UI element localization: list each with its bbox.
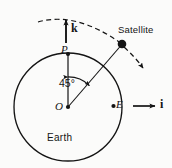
center-point-o-marker bbox=[66, 105, 70, 109]
satellite-earth-diagram: Satellite Earth P O E k i 45° bbox=[0, 0, 172, 168]
point-e-marker bbox=[111, 104, 115, 108]
satellite-marker bbox=[118, 40, 127, 49]
point-p-label: P bbox=[61, 44, 68, 55]
orbit-path-dashed bbox=[38, 19, 122, 44]
point-o-label: O bbox=[55, 101, 63, 112]
angle-45-label: 45° bbox=[59, 78, 75, 89]
point-e-label: E bbox=[116, 99, 123, 110]
earth-label: Earth bbox=[47, 133, 72, 143]
unit-vector-k-label: k bbox=[71, 22, 78, 34]
unit-vector-i-label: i bbox=[160, 98, 163, 110]
orbit-direction-arrow bbox=[124, 47, 143, 68]
satellite-label: Satellite bbox=[118, 25, 154, 35]
